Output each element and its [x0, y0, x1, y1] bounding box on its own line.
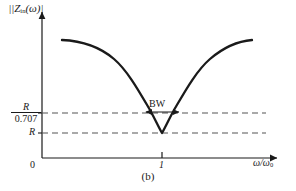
x-axis-label-symbol: ω/ω: [253, 157, 270, 168]
half-power-numerator: R: [10, 101, 42, 112]
half-power-level-label: R 0.707: [10, 101, 42, 124]
origin-label: 0: [30, 160, 35, 170]
y-axis-label-tail: (ω)|: [25, 2, 43, 14]
bandwidth-label: BW: [149, 99, 166, 109]
figure-container: ||Zin(ω)| R 0.707 R 0 1 ω/ω0 BW (b): [0, 0, 296, 191]
x-tick-label-one: 1: [159, 160, 164, 170]
x-axis-label: ω/ω0: [253, 158, 273, 169]
impedance-curve: [62, 40, 252, 133]
y-axis-label: ||Zin(ω)|: [9, 3, 44, 15]
half-power-denominator: 0.707: [10, 113, 42, 124]
minimum-level-label: R: [29, 127, 35, 137]
figure-caption: (b): [0, 171, 296, 182]
impedance-magnitude-plot: [0, 0, 296, 191]
x-axis-label-subscript: 0: [270, 161, 273, 168]
y-axis-label-symbol: |Z: [11, 2, 20, 14]
